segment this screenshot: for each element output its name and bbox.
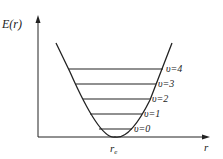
level-label-1: υ=1 <box>144 108 160 119</box>
level-label-4: υ=4 <box>166 63 182 74</box>
level-label-3: υ=3 <box>158 78 174 89</box>
y-axis <box>36 15 41 137</box>
x-axis-label: r <box>204 141 209 153</box>
energy-levels <box>69 69 163 129</box>
energy-diagram: E(r) r re υ=4 υ=3 υ=2 υ=1 υ=0 <box>0 0 223 159</box>
potential-curve <box>56 43 172 137</box>
level-label-2: υ=2 <box>152 93 168 104</box>
y-axis-label: E(r) <box>1 17 22 31</box>
equilibrium-label: re <box>110 142 117 156</box>
level-label-0: υ=0 <box>134 123 150 134</box>
